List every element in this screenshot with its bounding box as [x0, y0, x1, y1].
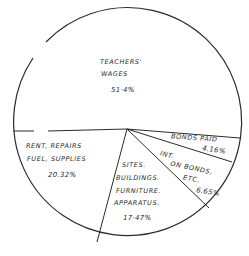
- slice-label-sites: Sites.: [122, 162, 146, 169]
- slice-label-wages-2: Wages: [101, 71, 128, 78]
- divider-sites-rent: [97, 129, 127, 242]
- slice-label-rent-2: Fuel, Supplies: [27, 156, 86, 163]
- slice-label-wages: Teachers': [100, 59, 142, 66]
- slice-value-wages: 51·4%: [111, 87, 135, 94]
- slice-label-sites-3: Furniture.: [116, 188, 161, 195]
- slice-label-rent: Rent, Repairs: [26, 143, 82, 150]
- slice-label-sites-4: Apparatus.: [114, 200, 160, 207]
- slice-label-sites-2: Buildings.: [116, 175, 160, 182]
- divider-wages-rent-2: [48, 129, 127, 131]
- pie-chart: Teachers' Wages 51·4% Bonds Paid 4.16% I…: [0, 0, 249, 256]
- slice-value-sites: 17·47%: [123, 215, 152, 222]
- slice-value-rent: 20.32%: [48, 172, 77, 179]
